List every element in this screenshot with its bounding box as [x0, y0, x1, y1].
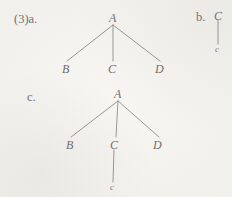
edge-c-root-to-c — [116, 101, 118, 137]
edge-a-root-to-b — [67, 25, 113, 61]
figure-page: (3)a. A B C D b. C c c. A B C D c — [0, 0, 232, 197]
edge-c-root-to-d — [118, 101, 159, 137]
tree-c-leaf-b-label: B — [66, 139, 73, 151]
edge-a-root-to-d — [113, 25, 160, 61]
tree-a-leaf-d-label: D — [155, 63, 164, 75]
tree-a-leaf-c-label: C — [108, 63, 116, 75]
tree-c-leaf-c-label: C — [110, 139, 118, 151]
enumerator-3a: (3)a. — [14, 13, 37, 26]
tree-c-leaf-d-label: D — [153, 139, 162, 151]
enumerator-3c: c. — [27, 91, 36, 104]
tree-b-child-label: c — [215, 45, 219, 54]
tree-a-leaf-b-label: B — [62, 63, 69, 75]
tree-c-root-label: A — [114, 88, 121, 100]
tree-b-root-label: C — [214, 10, 222, 22]
edge-c-mid-to-terminal — [113, 150, 114, 182]
tree-c-terminal-label: c — [110, 183, 114, 192]
tree-a-root-label: A — [109, 12, 116, 24]
enumerator-3b: b. — [196, 11, 205, 24]
edge-c-root-to-b — [71, 101, 118, 137]
